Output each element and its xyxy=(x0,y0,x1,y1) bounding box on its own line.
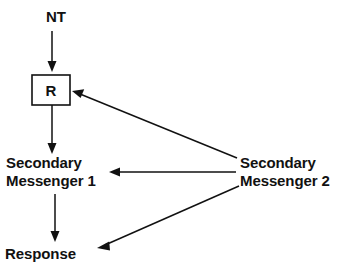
signal-transduction-diagram: NT R Secondary Messenger 1 Response xyxy=(0,0,348,273)
edge-nt-to-receptor xyxy=(48,31,57,72)
node-label-receptor: R xyxy=(46,82,57,99)
arrow-head-nt-to-receptor xyxy=(48,61,57,72)
node-label-neurotransmitter: NT xyxy=(46,8,66,25)
node-label-secondary-messenger-2-line2: Messenger 2 xyxy=(240,172,330,189)
arrow-head-messenger-2-to-receptor xyxy=(72,89,84,98)
node-label-secondary-messenger-2-line1: Secondary xyxy=(240,154,317,171)
diagram-canvas: NT R Secondary Messenger 1 Response xyxy=(0,0,348,273)
arrow-head-messenger-2-to-response xyxy=(97,242,110,251)
edge-line-messenger-2-to-response xyxy=(105,186,239,245)
arrow-head-messenger-2-to-messenger-1 xyxy=(109,168,120,177)
edge-messenger-2-to-messenger-1 xyxy=(109,168,236,177)
node-label-response: Response xyxy=(5,245,76,262)
arrow-head-messenger-1-to-response xyxy=(51,231,60,242)
edge-messenger-2-to-receptor xyxy=(72,89,237,158)
edge-line-messenger-2-to-receptor xyxy=(80,94,237,158)
node-receptor: R xyxy=(32,75,70,105)
node-label-secondary-messenger-1-line1: Secondary xyxy=(6,154,83,171)
node-label-secondary-messenger-1-line2: Messenger 1 xyxy=(6,172,96,189)
edge-messenger-2-to-response xyxy=(97,186,239,251)
node-secondary-messenger-2: Secondary Messenger 2 xyxy=(240,154,330,189)
arrow-head-receptor-to-messenger-1 xyxy=(48,143,57,154)
node-secondary-messenger-1: Secondary Messenger 1 xyxy=(6,154,96,189)
edge-messenger-1-to-response xyxy=(51,194,60,242)
edge-receptor-to-messenger-1 xyxy=(48,105,57,154)
